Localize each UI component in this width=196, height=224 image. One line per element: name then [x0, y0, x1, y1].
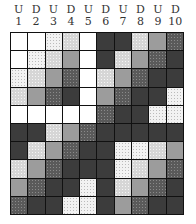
grid-cell [28, 142, 44, 159]
grid-cell [167, 69, 183, 86]
grid-cell [11, 88, 27, 105]
grid-cell [11, 33, 27, 50]
column-label: U7 [114, 4, 131, 28]
grid-cell [167, 51, 183, 68]
column-number: 4 [62, 16, 79, 28]
column-label: U5 [80, 4, 97, 28]
grid-cell [149, 160, 165, 177]
grid-cell [46, 179, 62, 196]
column-number: 8 [132, 16, 149, 28]
grid-cell [80, 179, 96, 196]
column-number: 5 [80, 16, 97, 28]
grid-cell [63, 179, 79, 196]
grid-cell [28, 69, 44, 86]
grid-cell [132, 88, 148, 105]
grid-cell [63, 160, 79, 177]
grid-cell [63, 33, 79, 50]
column-number: 2 [27, 16, 44, 28]
grid-cell [132, 179, 148, 196]
grid-cell [115, 124, 131, 141]
grid-cell [115, 33, 131, 50]
grid-cell [149, 51, 165, 68]
column-header: U1D2U3D4U5D6U7D8U9D10 [10, 4, 184, 28]
grid-cell [149, 69, 165, 86]
grid-cell [28, 160, 44, 177]
grid-cell [167, 179, 183, 196]
grid-cell [28, 106, 44, 123]
grid-cell [80, 51, 96, 68]
grid-cell [46, 33, 62, 50]
grid-cell [46, 142, 62, 159]
grid-cell [11, 51, 27, 68]
grid-cell [80, 106, 96, 123]
grid-cell [132, 69, 148, 86]
grid-cell [80, 197, 96, 214]
grid-cell [46, 51, 62, 68]
grid-cell [63, 197, 79, 214]
grid-cell [28, 33, 44, 50]
column-number: 10 [167, 16, 184, 28]
grid-cell [115, 179, 131, 196]
grid-cell [80, 69, 96, 86]
grid-cell [115, 69, 131, 86]
column-label: D8 [132, 4, 149, 28]
grid-cell [132, 142, 148, 159]
grid-cell [115, 88, 131, 105]
grid-cell [132, 106, 148, 123]
grid-cell [80, 33, 96, 50]
grid-cell [80, 160, 96, 177]
grid-cell [11, 106, 27, 123]
grid-cell [149, 124, 165, 141]
grid-cell [46, 69, 62, 86]
grid-cell [46, 160, 62, 177]
grid-cell [149, 179, 165, 196]
column-label: U3 [45, 4, 62, 28]
grid-cell [167, 124, 183, 141]
grid-cell [149, 106, 165, 123]
grid-cell [63, 69, 79, 86]
grid-cell [132, 33, 148, 50]
column-number: 3 [45, 16, 62, 28]
grid-cell [132, 160, 148, 177]
grid-cell [11, 179, 27, 196]
grid-cell [115, 106, 131, 123]
grid-cell [80, 142, 96, 159]
grid-cell [149, 33, 165, 50]
grid-cell [132, 124, 148, 141]
grid-cell [28, 197, 44, 214]
grid-cell [167, 88, 183, 105]
grid-cell [80, 124, 96, 141]
grid-cell [11, 124, 27, 141]
grid-cell [97, 106, 113, 123]
grid-cell [46, 106, 62, 123]
shaded-grid [10, 32, 184, 215]
grid-cell [97, 160, 113, 177]
column-label: U9 [149, 4, 166, 28]
grid-cell [97, 88, 113, 105]
grid-cell [167, 160, 183, 177]
grid-cell [11, 69, 27, 86]
grid-cell [97, 51, 113, 68]
grid-cell [28, 88, 44, 105]
grid-cell [149, 142, 165, 159]
grid-cell [46, 197, 62, 214]
column-number: 6 [97, 16, 114, 28]
grid-cell [97, 124, 113, 141]
column-number: 9 [149, 16, 166, 28]
grid-cell [46, 88, 62, 105]
column-number: 1 [10, 16, 27, 28]
grid-cell [97, 142, 113, 159]
grid-cell [132, 51, 148, 68]
grid-cell [63, 106, 79, 123]
grid-cell [11, 197, 27, 214]
column-number: 7 [114, 16, 131, 28]
grid-cell [28, 179, 44, 196]
grid-cell [149, 197, 165, 214]
grid-cell [97, 33, 113, 50]
grid-cell [97, 197, 113, 214]
column-label: D4 [62, 4, 79, 28]
grid-cell [28, 51, 44, 68]
column-label: U1 [10, 4, 27, 28]
grid-cell [167, 33, 183, 50]
grid-cell [46, 124, 62, 141]
